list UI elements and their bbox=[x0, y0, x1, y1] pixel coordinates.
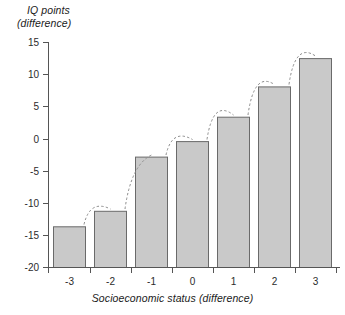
bars-group bbox=[54, 59, 332, 268]
x-tick-label-1: 1 bbox=[231, 276, 237, 287]
y-tick-label-15: 15 bbox=[28, 37, 40, 48]
x-axis: -3 -2 -1 0 1 2 3 bbox=[49, 268, 341, 288]
x-tick-label-0: 0 bbox=[190, 276, 196, 287]
chart-plot-area: 15 10 5 0 -5 -10 -15 -20 bbox=[0, 0, 345, 315]
y-tick-label-5: 5 bbox=[33, 101, 39, 112]
y-tick-label-neg5: -5 bbox=[30, 166, 39, 177]
bar-1[interactable] bbox=[218, 117, 250, 267]
bar-neg1[interactable] bbox=[136, 157, 168, 267]
x-tick-label-neg2: -2 bbox=[106, 276, 115, 287]
x-tick-label-neg3: -3 bbox=[65, 276, 74, 287]
bar-3[interactable] bbox=[300, 59, 332, 268]
bar-0[interactable] bbox=[177, 142, 209, 268]
x-tick-label-2: 2 bbox=[272, 276, 278, 287]
bar-neg3[interactable] bbox=[54, 227, 86, 268]
y-tick-label-neg20: -20 bbox=[25, 262, 40, 273]
bar-2[interactable] bbox=[259, 87, 291, 268]
chart-container: IQ points (difference) 15 10 5 0 -5 -10 … bbox=[0, 0, 345, 315]
x-axis-label: Socioeconomic status (difference) bbox=[0, 292, 345, 304]
y-tick-label-neg15: -15 bbox=[25, 230, 40, 241]
bar-neg2[interactable] bbox=[95, 211, 127, 267]
y-axis: 15 10 5 0 -5 -10 -15 -20 bbox=[25, 37, 49, 273]
y-tick-label-neg10: -10 bbox=[25, 198, 40, 209]
y-tick-label-0: 0 bbox=[33, 134, 39, 145]
x-tick-label-neg1: -1 bbox=[147, 276, 156, 287]
x-tick-label-3: 3 bbox=[313, 276, 319, 287]
y-tick-label-10: 10 bbox=[28, 69, 40, 80]
